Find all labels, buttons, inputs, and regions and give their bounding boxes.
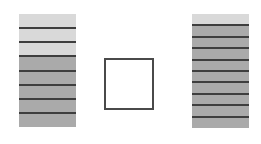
- left-layer-stack: [19, 14, 76, 127]
- layer-divider: [192, 116, 249, 118]
- layer-divider: [192, 59, 249, 61]
- center-empty-box: [104, 58, 154, 110]
- layer-divider: [192, 81, 249, 83]
- layer-divider: [192, 93, 249, 95]
- layer-divider: [19, 70, 76, 72]
- layer-divider: [192, 36, 249, 38]
- stack-layer: [19, 113, 76, 127]
- layer-divider: [19, 55, 76, 57]
- layer-divider: [19, 112, 76, 114]
- layer-divider: [192, 70, 249, 72]
- layer-divider: [19, 98, 76, 100]
- layer-divider: [192, 24, 249, 26]
- layer-divider: [19, 84, 76, 86]
- layer-divider: [192, 47, 249, 49]
- right-layer-stack: [192, 14, 249, 128]
- layer-divider: [19, 41, 76, 43]
- layer-divider: [19, 27, 76, 29]
- stack-layer: [192, 117, 249, 128]
- layer-divider: [192, 104, 249, 106]
